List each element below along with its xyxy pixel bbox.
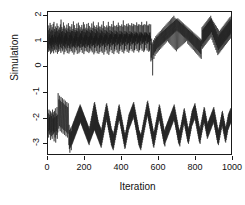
trace-lines [48,12,231,154]
x-tick-mark [195,156,196,160]
y-tick-mark [43,66,47,67]
y-tick-mark [43,118,47,119]
x-tick-mark [158,156,159,160]
x-tick-mark [47,156,48,160]
x-tick-label: 800 [175,162,215,172]
x-tick-label: 0 [27,162,67,172]
x-axis-title: Iteration [0,181,245,192]
lower-chain-trace [48,93,231,153]
y-tick-mark [43,143,47,144]
y-tick-label: -1 [0,86,40,96]
y-tick-label-text: 1 [32,37,42,42]
y-tick-label: 0 [0,60,40,70]
x-tick-label: 400 [101,162,141,172]
chart-figure: Simulation Iteration 210-1-2-30200400600… [0,0,245,205]
y-tick-label: 2 [0,9,40,19]
y-tick-label-text: -2 [31,113,41,121]
y-tick-label-text: 0 [32,63,42,68]
y-tick-label-text: -3 [31,138,41,146]
y-tick-mark [43,41,47,42]
x-tick-label: 600 [138,162,178,172]
upper-chain-trace [48,16,231,76]
x-tick-label: 200 [64,162,104,172]
y-tick-label: 1 [0,35,40,45]
x-tick-mark [84,156,85,160]
x-tick-mark [232,156,233,160]
y-tick-label-text: -1 [31,87,41,95]
x-tick-label: 1000 [212,162,245,172]
plot-area [47,11,232,155]
y-tick-label: -2 [0,112,40,122]
x-axis-title-text: Iteration [89,181,155,192]
y-tick-label: -3 [0,137,40,147]
y-tick-mark [43,92,47,93]
y-tick-label-text: 2 [32,11,42,16]
y-tick-mark [43,15,47,16]
x-tick-mark [121,156,122,160]
